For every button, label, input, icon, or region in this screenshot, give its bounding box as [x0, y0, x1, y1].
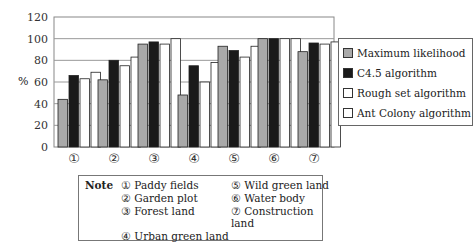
legend-item-c45: C4.5 algorithm [343, 63, 468, 83]
bar [240, 57, 250, 147]
legend-item-maximum-likelihood: Maximum likelihood [343, 43, 468, 63]
bar [309, 43, 319, 147]
x-tick-label: ④ [188, 151, 200, 166]
bar [298, 52, 308, 147]
y-tick-label: 40 [34, 98, 48, 111]
legend-label: C4.5 algorithm [357, 67, 437, 79]
note-box: Note ① Paddy fields ⑤ Wild green land ② … [78, 175, 323, 241]
bar [189, 66, 199, 147]
bar [58, 99, 68, 147]
bar [69, 76, 79, 148]
note-item: ③ Forest land [121, 205, 231, 229]
x-tick-label: ③ [148, 151, 160, 166]
legend: Maximum likelihood C4.5 algorithm Rough … [338, 38, 473, 126]
bar [218, 46, 228, 147]
bar [98, 80, 108, 147]
x-tick-label: ① [68, 151, 80, 166]
bar [178, 95, 188, 147]
x-tick-label: ⑤ [228, 151, 240, 166]
swatch-maximum-likelihood [343, 48, 353, 58]
bar [229, 51, 239, 147]
bar [200, 82, 210, 147]
swatch-rough-set [343, 88, 353, 98]
y-tick-label: 60 [34, 76, 48, 89]
bar [320, 44, 330, 147]
note-item: ① Paddy fields [121, 179, 231, 191]
legend-label: Maximum likelihood [357, 47, 465, 59]
y-tick-label: 20 [34, 119, 48, 132]
bar [160, 44, 170, 147]
bar [280, 39, 290, 147]
note-label: Note [85, 179, 121, 191]
legend-label: Rough set algorithm [357, 87, 466, 99]
note-item: ⑥ Water body [231, 192, 331, 204]
bar [120, 66, 130, 147]
x-tick-label: ⑥ [268, 151, 280, 166]
note-item: ⑤ Wild green land [231, 179, 331, 191]
y-axis-label: % [18, 75, 28, 88]
y-tick-label: 120 [27, 11, 48, 24]
legend-item-ant-colony: Ant Colony algorithm [343, 103, 468, 123]
swatch-ant-colony [343, 108, 353, 118]
x-tick-label: ⑦ [308, 151, 320, 166]
note-item: ⑦ Construction land [231, 205, 331, 229]
y-tick-label: 0 [41, 141, 48, 154]
note-item: ② Garden plot [121, 192, 231, 204]
bar [149, 42, 159, 147]
bar [258, 39, 268, 147]
bar [138, 44, 148, 147]
legend-label: Ant Colony algorithm [357, 107, 471, 119]
bar [269, 39, 279, 147]
y-tick-label: 80 [34, 54, 48, 67]
y-tick-label: 100 [27, 33, 48, 46]
bar [80, 79, 90, 147]
x-tick-label: ② [108, 151, 120, 166]
note-item: ④ Urban green land [121, 230, 231, 242]
bar [109, 60, 119, 147]
legend-item-rough-set: Rough set algorithm [343, 83, 468, 103]
swatch-c45 [343, 68, 353, 78]
